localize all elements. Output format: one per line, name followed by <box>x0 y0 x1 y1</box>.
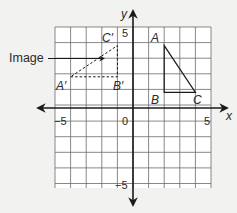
y-tick-neg5: −5 <box>115 179 128 191</box>
origin-label: 0 <box>122 115 128 127</box>
coordinate-plane: x y −5 5 0 5 −5 A B C A′ B′ C′ Image <box>0 0 237 213</box>
y-axis-label: y <box>120 7 128 21</box>
y-tick-5: 5 <box>122 27 128 39</box>
point-a-prime-label: A′ <box>55 79 67 93</box>
x-tick-5: 5 <box>204 115 210 127</box>
point-c-prime-label: C′ <box>102 31 114 45</box>
point-a-label: A <box>150 31 159 45</box>
x-tick-neg5: −5 <box>54 115 67 127</box>
point-c-label: C <box>193 93 202 107</box>
x-axis-label: x <box>225 109 233 123</box>
point-b-prime-label: B′ <box>113 79 124 93</box>
point-b-label: B <box>151 93 159 107</box>
image-callout-label: Image <box>9 51 44 65</box>
